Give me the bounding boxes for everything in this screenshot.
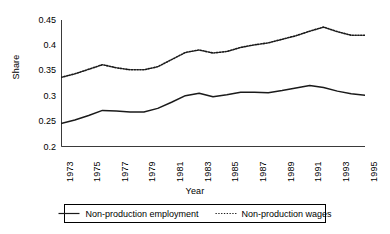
axis-spines	[62, 20, 366, 147]
x-tick-label: 1995	[369, 161, 379, 182]
x-tick-label: 1991	[313, 161, 323, 182]
y-axis-tick-labels: 0.20.250.30.350.40.45	[18, 0, 56, 160]
series-line-2	[61, 27, 365, 77]
x-tick-label: 1983	[203, 161, 213, 182]
legend-item-2: Non-production wages	[215, 209, 332, 219]
x-tick-label: 1975	[92, 161, 102, 182]
x-tick-label: 1973	[65, 161, 75, 182]
plot-area	[61, 20, 365, 147]
legend-item-1: Non-production employment	[58, 209, 198, 219]
series-line-1	[61, 86, 365, 124]
chart-svg	[61, 20, 365, 147]
legend-label: Non-production employment	[85, 209, 198, 219]
dotted-line-swatch-icon	[215, 210, 237, 217]
y-tick-label: 0.45	[38, 16, 56, 25]
y-tick-label: 0.25	[38, 117, 56, 126]
x-axis-tick-labels: 1973197519771979198119831985198719891991…	[61, 150, 371, 190]
chart-legend: Non-production employmentNon-production …	[64, 204, 326, 223]
x-tick-label: 1987	[258, 161, 268, 182]
solid-line-swatch-icon	[58, 210, 80, 217]
y-tick-label: 0.35	[38, 66, 56, 75]
x-tick-label: 1993	[341, 161, 351, 182]
y-tick-label: 0.3	[43, 92, 56, 101]
legend-label: Non-production wages	[242, 209, 332, 219]
x-tick-label: 1977	[120, 161, 130, 182]
y-tick-label: 0.4	[43, 41, 56, 50]
x-tick-label: 1979	[147, 161, 157, 182]
x-tick-label: 1985	[230, 161, 240, 182]
chart-figure: Share 0.20.250.30.350.40.45 197319751977…	[0, 0, 390, 234]
x-tick-label: 1989	[286, 161, 296, 182]
x-tick-label: 1981	[175, 161, 185, 182]
x-axis-label: Year	[0, 186, 390, 196]
y-tick-label: 0.2	[43, 143, 56, 152]
